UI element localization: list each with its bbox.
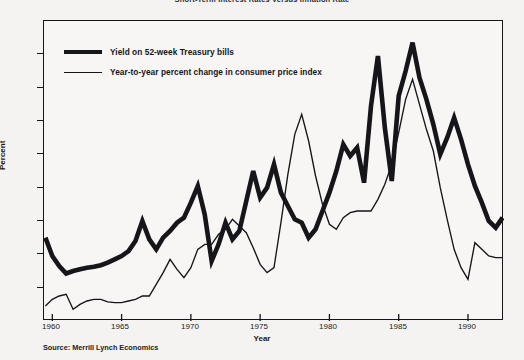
source-note: Source: Merrill Lynch Economics	[43, 343, 158, 352]
thick-line-swatch-icon	[62, 46, 104, 58]
x-axis-tick-label: 1980	[308, 322, 348, 331]
legend-label-treasury-bills: Yield on 52-week Treasury bills	[110, 47, 234, 57]
x-axis-tick-label: 1970	[170, 322, 210, 331]
x-axis-tick-marks	[52, 314, 468, 321]
chart-legend: Yield on 52-week Treasury bills Year-to-…	[62, 44, 322, 80]
legend-item-cpi: Year-to-year percent change in consumer …	[62, 64, 322, 80]
x-axis-title: Year	[0, 334, 524, 343]
legend-item-treasury-bills: Yield on 52-week Treasury bills	[62, 44, 322, 60]
x-axis-tick-label: 1960	[31, 322, 71, 331]
x-axis-tick-label: 1965	[100, 322, 140, 331]
series-line-cpi	[45, 79, 502, 309]
legend-label-cpi: Year-to-year percent change in consumer …	[110, 67, 322, 77]
x-axis-tick-label: 1985	[378, 322, 418, 331]
thin-line-swatch-icon	[62, 66, 104, 78]
chart-figure: Short-Term Interest Rates Versus Inflati…	[0, 0, 524, 360]
x-axis-tick-label: 1975	[239, 322, 279, 331]
x-axis-tick-label: 1990	[447, 322, 487, 331]
y-axis-title: Percent	[0, 141, 7, 170]
page-title: Short-Term Interest Rates Versus Inflati…	[0, 0, 524, 2]
